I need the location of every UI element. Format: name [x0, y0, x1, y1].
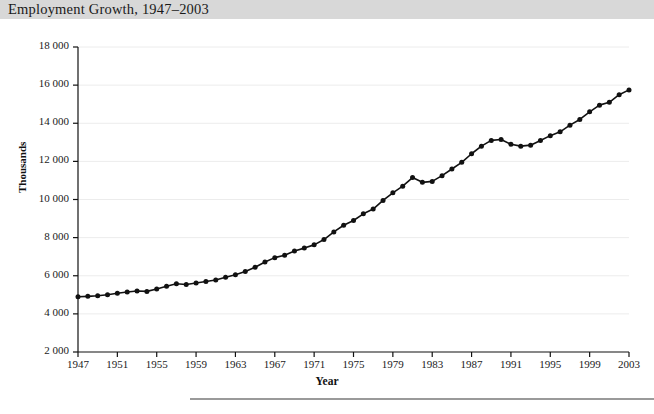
data-point [430, 179, 435, 184]
data-point [469, 151, 474, 156]
data-point [292, 248, 297, 253]
x-tick-label: 1951 [97, 358, 137, 370]
data-point [203, 279, 208, 284]
data-point [213, 277, 218, 282]
data-point [115, 291, 120, 296]
data-point [508, 142, 513, 147]
x-tick-label: 1979 [373, 358, 413, 370]
series-markers [76, 87, 632, 299]
y-axis-title: Thousands [16, 169, 28, 193]
y-tick-label: 10 000 [17, 192, 69, 204]
data-point [577, 117, 582, 122]
x-axis-title: Year [0, 375, 654, 387]
data-point [331, 229, 336, 234]
data-point [528, 143, 533, 148]
data-point [381, 198, 386, 203]
data-point [341, 223, 346, 228]
data-point [321, 237, 326, 242]
gridlines [78, 47, 629, 314]
data-point [489, 138, 494, 143]
data-point [449, 167, 454, 172]
data-point [390, 190, 395, 195]
x-tick-label: 2003 [609, 358, 649, 370]
data-point [587, 109, 592, 114]
x-tick-label: 1983 [412, 358, 452, 370]
data-point [420, 180, 425, 185]
data-point [361, 211, 366, 216]
data-point [174, 281, 179, 286]
line-chart [0, 0, 654, 414]
x-axis-ticks [78, 352, 629, 357]
data-point [144, 289, 149, 294]
data-point [125, 289, 130, 294]
y-tick-label: 2 000 [17, 344, 69, 356]
data-point [282, 253, 287, 258]
data-point [400, 184, 405, 189]
data-point [518, 144, 523, 149]
data-point [558, 129, 563, 134]
x-tick-label: 1999 [570, 358, 610, 370]
x-tick-label: 1995 [530, 358, 570, 370]
data-point [538, 138, 543, 143]
x-tick-label: 1947 [58, 358, 98, 370]
x-tick-label: 1991 [491, 358, 531, 370]
x-tick-label: 1963 [215, 358, 255, 370]
x-tick-label: 1975 [334, 358, 374, 370]
y-tick-label: 4 000 [17, 306, 69, 318]
data-point [499, 137, 504, 142]
x-tick-label: 1959 [176, 358, 216, 370]
x-tick-label: 1971 [294, 358, 334, 370]
data-point [312, 242, 317, 247]
y-tick-label: 6 000 [17, 268, 69, 280]
x-tick-label: 1987 [452, 358, 492, 370]
y-tick-label: 8 000 [17, 230, 69, 242]
data-point [410, 175, 415, 180]
data-point [371, 207, 376, 212]
data-point [233, 272, 238, 277]
y-axis-ticks [73, 47, 78, 352]
data-point [135, 289, 140, 294]
chart-container: 2 0004 0006 0008 00010 00012 00014 00016… [0, 0, 654, 414]
data-point [597, 103, 602, 108]
data-point [95, 293, 100, 298]
y-tick-label: 16 000 [17, 77, 69, 89]
series-line [78, 90, 629, 297]
data-point [253, 265, 258, 270]
data-point [351, 218, 356, 223]
data-point [262, 260, 267, 265]
data-point [479, 144, 484, 149]
data-series [76, 87, 632, 299]
data-point [567, 123, 572, 128]
data-point [105, 292, 110, 297]
data-point [76, 294, 81, 299]
data-point [302, 246, 307, 251]
data-point [184, 282, 189, 287]
data-point [627, 87, 632, 92]
footer-rule [190, 398, 654, 400]
y-tick-label: 14 000 [17, 115, 69, 127]
x-tick-label: 1955 [137, 358, 177, 370]
data-point [440, 173, 445, 178]
data-point [243, 269, 248, 274]
data-point [459, 160, 464, 165]
data-point [548, 133, 553, 138]
data-point [194, 280, 199, 285]
y-tick-label: 18 000 [17, 39, 69, 51]
data-point [223, 275, 228, 280]
data-point [164, 284, 169, 289]
data-point [617, 92, 622, 97]
data-point [272, 255, 277, 260]
data-point [85, 294, 90, 299]
data-point [154, 287, 159, 292]
data-point [607, 100, 612, 105]
x-tick-label: 1967 [255, 358, 295, 370]
